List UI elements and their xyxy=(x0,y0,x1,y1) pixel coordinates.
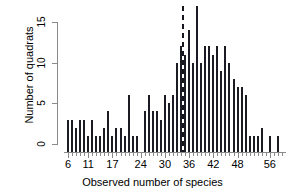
x-axis-minor-tick xyxy=(185,152,186,156)
x-axis-tick-label: 36 xyxy=(179,158,199,171)
histogram-bar xyxy=(132,136,134,152)
histogram-bar xyxy=(233,79,235,152)
x-axis-minor-tick xyxy=(250,152,251,156)
histogram-bar xyxy=(124,136,126,152)
x-axis-minor-tick xyxy=(125,152,126,156)
x-axis-minor-tick xyxy=(129,152,130,156)
histogram-bar xyxy=(99,136,101,152)
x-axis-tick-label: 42 xyxy=(203,158,223,171)
histogram-bar xyxy=(156,111,158,152)
x-axis-minor-tick xyxy=(177,152,178,156)
x-axis-minor-tick xyxy=(104,152,105,156)
histogram-bar xyxy=(212,55,214,152)
x-axis-minor-tick xyxy=(169,152,170,156)
histogram-bar xyxy=(253,136,255,152)
histogram-bar xyxy=(184,55,186,152)
x-axis-tick-label: 48 xyxy=(228,158,248,171)
histogram-bar xyxy=(164,95,166,152)
x-axis-minor-tick xyxy=(197,152,198,156)
x-axis-minor-tick xyxy=(108,152,109,156)
histogram-bar xyxy=(103,128,105,152)
histogram-bar xyxy=(83,120,85,152)
histogram-bar xyxy=(144,111,146,152)
x-axis-minor-tick xyxy=(258,152,259,156)
x-axis-minor-tick xyxy=(72,152,73,156)
histogram-bar xyxy=(160,120,162,152)
histogram-bar xyxy=(245,95,247,152)
x-axis-minor-tick xyxy=(153,152,154,156)
histogram-bar xyxy=(277,136,279,152)
x-axis-minor-tick xyxy=(266,152,267,156)
x-axis-tick-label: 6 xyxy=(58,158,78,171)
histogram-bar xyxy=(111,136,113,152)
histogram-bar xyxy=(257,136,259,152)
x-axis-minor-tick xyxy=(173,152,174,156)
x-axis-minor-tick xyxy=(181,152,182,156)
x-axis-minor-tick xyxy=(217,152,218,156)
histogram-bar xyxy=(269,136,271,152)
x-axis-minor-tick xyxy=(246,152,247,156)
x-axis-minor-tick xyxy=(242,152,243,156)
x-axis-minor-tick xyxy=(149,152,150,156)
x-axis-minor-tick xyxy=(100,152,101,156)
x-axis-tick-label: 24 xyxy=(131,158,151,171)
histogram-bar xyxy=(128,95,130,152)
x-axis-minor-tick xyxy=(133,152,134,156)
histogram-bar xyxy=(120,128,122,152)
histogram-bar xyxy=(168,103,170,152)
histogram-bar xyxy=(228,63,230,152)
histogram-bar xyxy=(237,87,239,152)
histogram-bar xyxy=(200,63,202,152)
x-axis-minor-tick xyxy=(205,152,206,156)
histogram-bar xyxy=(152,111,154,152)
histogram-bar xyxy=(224,46,226,152)
histogram-figure: Number of quadrats 051015 61117243036424… xyxy=(0,0,305,196)
x-axis-minor-tick xyxy=(282,152,283,156)
x-axis-minor-tick xyxy=(278,152,279,156)
x-axis-minor-tick xyxy=(80,152,81,156)
x-axis-minor-tick xyxy=(76,152,77,156)
histogram-bar xyxy=(216,46,218,152)
x-axis-minor-tick xyxy=(116,152,117,156)
x-axis-minor-tick xyxy=(137,152,138,156)
x-axis-minor-tick xyxy=(201,152,202,156)
x-axis-minor-tick xyxy=(193,152,194,156)
x-axis-minor-tick xyxy=(234,152,235,156)
x-axis-tick-label: 30 xyxy=(155,158,175,171)
x-axis-minor-tick xyxy=(262,152,263,156)
x-axis-minor-tick xyxy=(225,152,226,156)
histogram-bar xyxy=(249,136,251,152)
x-axis-minor-tick xyxy=(157,152,158,156)
histogram-bar xyxy=(136,136,138,152)
histogram-bar xyxy=(220,71,222,152)
x-axis-line xyxy=(64,152,286,153)
x-axis-tick-label: 56 xyxy=(260,158,280,171)
x-axis-minor-tick xyxy=(274,152,275,156)
x-axis-label: Observed number of species xyxy=(0,175,305,189)
histogram-bar xyxy=(107,111,109,152)
histogram-bar xyxy=(91,120,93,152)
x-axis-minor-tick xyxy=(96,152,97,156)
histogram-bar xyxy=(95,136,97,152)
histogram-bar xyxy=(71,120,73,152)
x-axis-minor-tick xyxy=(145,152,146,156)
histogram-bar xyxy=(75,128,77,152)
x-axis-minor-tick xyxy=(209,152,210,156)
histogram-bar xyxy=(192,63,194,152)
histogram-bar xyxy=(204,46,206,152)
histogram-bar xyxy=(148,95,150,152)
histogram-bar xyxy=(67,120,69,152)
histogram-bar xyxy=(188,30,190,152)
histogram-bar xyxy=(87,136,89,152)
x-axis-minor-tick xyxy=(229,152,230,156)
x-axis-minor-tick xyxy=(221,152,222,156)
reference-line xyxy=(182,6,184,152)
histogram-bar xyxy=(196,6,198,152)
histogram-bar xyxy=(79,120,81,152)
histogram-bar xyxy=(208,46,210,152)
x-axis-tick-label: 17 xyxy=(102,158,122,171)
x-axis-tick-label: 11 xyxy=(78,158,98,171)
histogram-bar xyxy=(172,95,174,152)
x-axis-minor-tick xyxy=(84,152,85,156)
histogram-bar xyxy=(115,128,117,152)
